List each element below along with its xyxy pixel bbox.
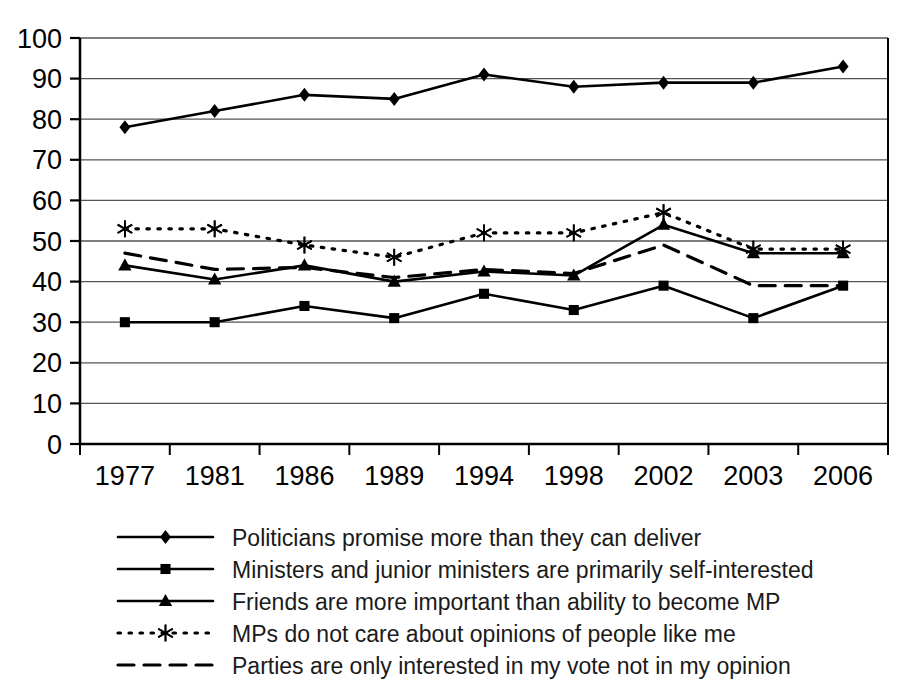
marker-diamond bbox=[389, 92, 400, 106]
marker-diamond bbox=[568, 80, 579, 94]
legend-item: Friends are more important than ability … bbox=[118, 589, 780, 615]
y-tick-label: 60 bbox=[32, 186, 62, 216]
series-1 bbox=[119, 59, 848, 134]
marker-asterisk bbox=[567, 224, 582, 241]
marker-diamond bbox=[299, 88, 310, 102]
marker-square bbox=[299, 301, 309, 311]
y-tick-label: 50 bbox=[32, 227, 62, 257]
x-tick-label: 1986 bbox=[274, 461, 334, 491]
x-tick-label: 1998 bbox=[544, 461, 604, 491]
marker-square bbox=[210, 317, 220, 327]
y-tick-label: 30 bbox=[32, 308, 62, 338]
line-chart: 0102030405060708090100 19771981198619891… bbox=[0, 0, 922, 693]
y-tick-label: 70 bbox=[32, 145, 62, 175]
x-tick-label: 1994 bbox=[454, 461, 514, 491]
y-tick-label: 80 bbox=[32, 105, 62, 135]
y-tick-marks bbox=[70, 38, 80, 444]
x-axis-tick-labels: 197719811986198919941998200220032006 bbox=[95, 461, 873, 491]
x-tick-label: 2006 bbox=[813, 461, 873, 491]
legend-item: Politicians promise more than they can d… bbox=[118, 525, 702, 551]
legend-label: Friends are more important than ability … bbox=[232, 589, 780, 615]
marker-square bbox=[659, 281, 669, 291]
series-4 bbox=[118, 204, 851, 265]
marker-asterisk bbox=[477, 224, 492, 241]
marker-diamond bbox=[658, 76, 669, 90]
x-tick-label: 1989 bbox=[364, 461, 424, 491]
x-tick-label: 2003 bbox=[723, 461, 783, 491]
legend-item: MPs do not care about opinions of people… bbox=[118, 621, 736, 647]
x-tick-label: 2002 bbox=[634, 461, 694, 491]
marker-diamond bbox=[119, 120, 130, 134]
series-2 bbox=[120, 281, 848, 328]
x-tick-label: 1981 bbox=[185, 461, 245, 491]
marker-diamond bbox=[748, 76, 759, 90]
marker-asterisk bbox=[207, 220, 222, 237]
y-tick-label: 90 bbox=[32, 64, 62, 94]
marker-square bbox=[569, 305, 579, 315]
marker-diamond bbox=[838, 59, 849, 73]
legend-label: Politicians promise more than they can d… bbox=[232, 525, 702, 551]
marker-asterisk bbox=[118, 220, 133, 237]
chart-legend: Politicians promise more than they can d… bbox=[118, 525, 814, 679]
y-tick-label: 20 bbox=[32, 348, 62, 378]
chart-container: 0102030405060708090100 19771981198619891… bbox=[0, 0, 922, 693]
marker-square bbox=[389, 313, 399, 323]
marker-diamond bbox=[160, 530, 171, 544]
data-series-layer bbox=[118, 59, 851, 327]
marker-triangle bbox=[118, 258, 131, 270]
marker-diamond bbox=[479, 68, 490, 82]
marker-square bbox=[120, 317, 130, 327]
y-tick-label: 100 bbox=[17, 24, 62, 54]
marker-square bbox=[160, 564, 170, 574]
y-tick-label: 40 bbox=[32, 267, 62, 297]
legend-item: Ministers and junior ministers are prima… bbox=[118, 557, 814, 583]
legend-label: MPs do not care about opinions of people… bbox=[232, 621, 736, 647]
x-tick-label: 1977 bbox=[95, 461, 155, 491]
x-tick-marks bbox=[80, 444, 888, 455]
marker-square bbox=[748, 313, 758, 323]
legend-label: Ministers and junior ministers are prima… bbox=[232, 557, 814, 583]
marker-square bbox=[479, 289, 489, 299]
y-axis-tick-labels: 0102030405060708090100 bbox=[17, 24, 62, 460]
marker-diamond bbox=[209, 104, 220, 118]
y-tick-label: 0 bbox=[47, 430, 62, 460]
legend-item: Parties are only interested in my vote n… bbox=[118, 653, 791, 679]
legend-label: Parties are only interested in my vote n… bbox=[232, 653, 791, 679]
y-tick-label: 10 bbox=[32, 389, 62, 419]
